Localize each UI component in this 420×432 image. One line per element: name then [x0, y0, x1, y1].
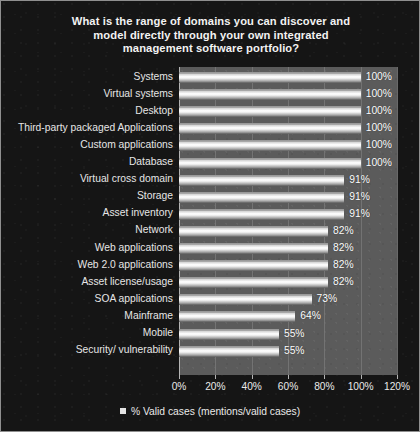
bar[interactable] [179, 277, 328, 288]
bar-row[interactable]: 82% [179, 274, 397, 291]
x-tick-mark [397, 375, 398, 379]
bar[interactable] [179, 260, 328, 271]
x-axis: 0%20%40%60%80%100%120% [179, 375, 397, 395]
x-tick-mark [179, 375, 180, 379]
x-tick-label: 40% [241, 380, 261, 393]
bar-value-label: 55% [284, 327, 305, 341]
legend-label: % Valid cases (mentions/valid cases) [131, 406, 300, 417]
category-label: Security/ vulnerability [1, 343, 173, 357]
x-tick-label: 60% [278, 380, 298, 393]
bar[interactable] [179, 346, 279, 357]
category-label: Asset license/usage [1, 275, 173, 289]
category-label: Web 2.0 applications [1, 258, 173, 272]
category-label: Storage [1, 189, 173, 203]
bar-value-label: 100% [366, 70, 392, 84]
bar[interactable] [179, 72, 361, 83]
category-label: Database [1, 155, 173, 169]
bar-row[interactable]: 55% [179, 343, 397, 360]
category-label: SOA applications [1, 292, 173, 306]
x-tick-label: 20% [205, 380, 225, 393]
bar-row[interactable]: 82% [179, 257, 397, 274]
bar-row[interactable]: 91% [179, 206, 397, 223]
bar-value-label: 82% [333, 258, 354, 272]
legend-square-marker-icon [120, 408, 126, 414]
bar-value-label: 100% [366, 87, 392, 101]
bar-row[interactable]: 73% [179, 291, 397, 308]
bar-value-label: 91% [349, 173, 370, 187]
chart-legend: % Valid cases (mentions/valid cases) [1, 405, 419, 419]
bar-row[interactable]: 100% [179, 103, 397, 120]
category-label: Third-party packaged Applications [1, 121, 173, 135]
bar-row[interactable]: 64% [179, 308, 397, 325]
bar-value-label: 100% [366, 104, 392, 118]
bar-value-label: 100% [366, 121, 392, 135]
bar-row[interactable]: 100% [179, 69, 397, 86]
x-tick-mark [252, 375, 253, 379]
bar-value-label: 82% [333, 241, 354, 255]
bar-value-label: 73% [317, 292, 338, 306]
bar-value-label: 91% [349, 190, 370, 204]
bar-row[interactable]: 100% [179, 86, 397, 103]
category-axis-labels: SystemsVirtual systemsDesktopThird-party… [1, 67, 175, 375]
category-label: Systems [1, 70, 173, 84]
bar-value-label: 100% [366, 156, 392, 170]
bar-value-label: 82% [333, 224, 354, 238]
category-label: Virtual cross domain [1, 172, 173, 186]
bar-row[interactable]: 82% [179, 240, 397, 257]
bar-row[interactable]: 100% [179, 137, 397, 154]
gridline-120% [397, 67, 398, 375]
bar[interactable] [179, 329, 279, 340]
chart-title-line-1: What is the range of domains you can dis… [41, 15, 381, 29]
category-label: Asset inventory [1, 206, 173, 220]
bar-row[interactable]: 91% [179, 172, 397, 189]
chart-title-line-2: model directly through your own integrat… [41, 29, 381, 43]
chart-title-line-3: management software portfolio? [41, 42, 381, 56]
category-label: Custom applications [1, 138, 173, 152]
bar[interactable] [179, 226, 328, 237]
x-tick-mark [324, 375, 325, 379]
bar[interactable] [179, 209, 344, 220]
category-label: Web applications [1, 241, 173, 255]
plot-area: 100%100%100%100%100%100%91%91%91%82%82%8… [179, 67, 397, 375]
x-tick-label: 0% [172, 380, 187, 393]
bar-value-label: 55% [284, 344, 305, 358]
x-tick-mark [288, 375, 289, 379]
x-tick-label: 100% [348, 380, 374, 393]
bar-row[interactable]: 100% [179, 155, 397, 172]
bar[interactable] [179, 243, 328, 254]
bar-value-label: 64% [300, 309, 321, 323]
x-tick-mark [361, 375, 362, 379]
bar-value-label: 82% [333, 275, 354, 289]
bar-value-label: 91% [349, 207, 370, 221]
category-label: Desktop [1, 104, 173, 118]
bar[interactable] [179, 175, 344, 186]
chart-title: What is the range of domains you can dis… [41, 15, 381, 56]
bar[interactable] [179, 140, 361, 151]
bar-row[interactable]: 100% [179, 120, 397, 137]
x-tick-label: 120% [384, 380, 410, 393]
bar-row[interactable]: 55% [179, 326, 397, 343]
bar[interactable] [179, 123, 361, 134]
x-tick-mark [215, 375, 216, 379]
category-label: Network [1, 223, 173, 237]
bar[interactable] [179, 192, 344, 203]
category-label: Virtual systems [1, 87, 173, 101]
bar[interactable] [179, 158, 361, 169]
chart-container: What is the range of domains you can dis… [0, 0, 420, 432]
category-label: Mobile [1, 326, 173, 340]
bar-row[interactable]: 91% [179, 189, 397, 206]
bar-value-label: 100% [366, 138, 392, 152]
category-label: Mainframe [1, 309, 173, 323]
bar-rows: 100%100%100%100%100%100%91%91%91%82%82%8… [179, 67, 397, 375]
bar[interactable] [179, 106, 361, 117]
bar[interactable] [179, 311, 295, 322]
bar[interactable] [179, 89, 361, 100]
bar-row[interactable]: 82% [179, 223, 397, 240]
x-tick-label: 80% [314, 380, 334, 393]
bar[interactable] [179, 294, 312, 305]
